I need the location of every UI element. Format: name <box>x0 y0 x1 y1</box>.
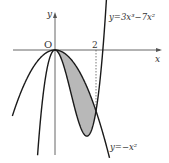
parabola-label: y=−x² <box>109 142 138 152</box>
cubic-label: y=3x³−7x² <box>108 12 156 22</box>
origin-label: O <box>44 39 52 50</box>
y-axis-arrow-icon <box>53 12 57 18</box>
y-axis-label: y <box>46 9 53 19</box>
graph: y x O 2 y=3x³−7x² y=−x² <box>0 0 169 163</box>
x-axis-label: x <box>155 54 160 64</box>
x-axis-arrow-icon <box>156 48 162 52</box>
tick-label-2: 2 <box>92 40 98 50</box>
curve-parabola <box>12 50 109 158</box>
